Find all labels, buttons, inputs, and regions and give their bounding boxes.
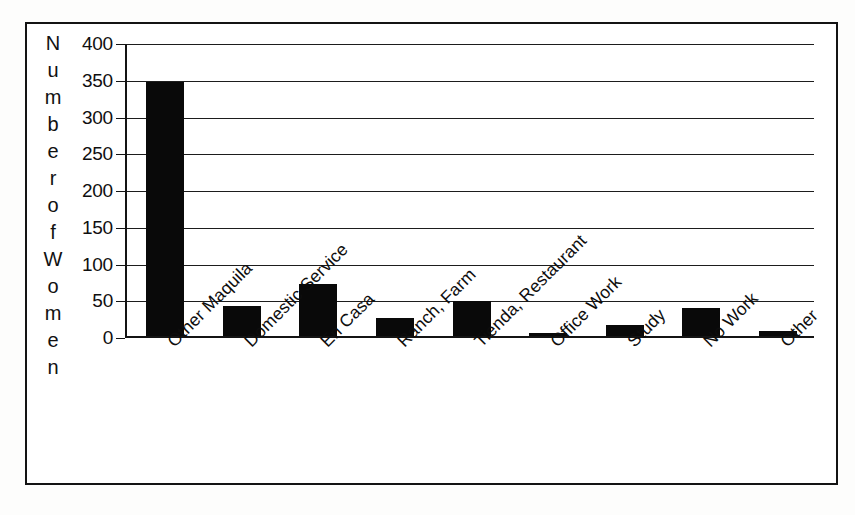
y-axis-title-char: W	[44, 246, 63, 273]
y-axis-tick-label: 250	[82, 143, 113, 165]
tick-mark	[116, 228, 125, 229]
tick-mark	[116, 191, 125, 192]
y-axis-tick-label: 200	[82, 180, 113, 202]
y-axis-title-char: u	[47, 57, 58, 84]
y-axis-tick-label: 0	[103, 327, 113, 349]
tick-mark	[116, 44, 125, 45]
tick-mark	[116, 338, 125, 339]
y-axis-title-char: b	[47, 111, 58, 138]
y-axis-title: N u m b e r o f W o m e n	[36, 30, 70, 375]
y-axis-title-char: r	[50, 165, 57, 192]
y-axis-title-char: n	[47, 354, 58, 381]
y-axis-title-char: e	[47, 138, 58, 165]
y-axis-title-char: o	[47, 273, 58, 300]
tick-mark	[116, 81, 125, 82]
y-axis-tick-label: 50	[92, 290, 113, 312]
chart-page: N u m b e r o f W o m e n 05010015020025…	[0, 0, 855, 515]
y-axis-title-char: e	[47, 327, 58, 354]
y-axis-tick-label: 400	[82, 33, 113, 55]
y-axis-title-char: o	[47, 192, 58, 219]
y-axis-title-char: N	[46, 30, 60, 57]
y-axis-tick-label: 100	[82, 254, 113, 276]
y-axis-title-char: m	[45, 300, 62, 327]
x-axis-labels-group: Other MaquilaDomestic ServiceEn CasaRanc…	[125, 338, 825, 478]
tick-mark	[116, 301, 125, 302]
tick-mark	[116, 265, 125, 266]
y-axis-title-char: f	[50, 219, 56, 246]
y-axis-tick-label: 150	[82, 217, 113, 239]
tick-mark	[116, 154, 125, 155]
tick-mark	[116, 118, 125, 119]
y-axis-title-char: m	[45, 84, 62, 111]
y-axis-tick-label: 300	[82, 107, 113, 129]
y-axis-tick-label: 350	[82, 70, 113, 92]
